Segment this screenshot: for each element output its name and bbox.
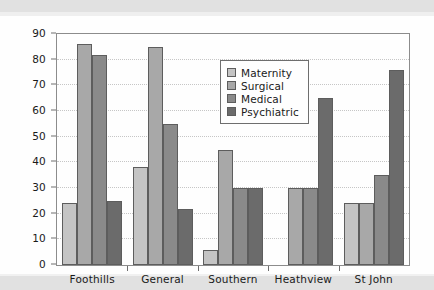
legend-item-maternity: Maternity xyxy=(227,66,299,79)
y-tick-label-80: 80 xyxy=(32,53,46,65)
bar-st-john-psychiatric xyxy=(389,70,404,265)
bar-southern-psychiatric xyxy=(248,188,263,265)
scan-band-top xyxy=(0,0,434,12)
bar-group-foothills xyxy=(57,34,127,265)
y-tick-mark-10 xyxy=(51,238,56,239)
bar-chart-figure: 0102030405060708090 FoothillsGeneralSout… xyxy=(0,16,434,274)
y-tick-mark-60 xyxy=(51,110,56,111)
y-tick-mark-30 xyxy=(51,187,56,188)
x-tick-label-general: General xyxy=(141,273,184,285)
bar-southern-maternity xyxy=(203,250,218,265)
y-tick-label-10: 10 xyxy=(32,232,46,244)
bar-general-surgical xyxy=(148,47,163,265)
y-tick-label-40: 40 xyxy=(32,155,46,167)
bar-foothills-psychiatric xyxy=(107,201,122,265)
chart-legend: MaternitySurgicalMedicalPsychiatric xyxy=(220,60,309,124)
x-tick-mark-3 xyxy=(268,266,269,271)
legend-label-psychiatric: Psychiatric xyxy=(241,106,299,118)
y-tick-mark-90 xyxy=(51,33,56,34)
bar-st-john-surgical xyxy=(359,203,374,265)
bar-foothills-maternity xyxy=(62,203,77,265)
legend-item-psychiatric: Psychiatric xyxy=(227,105,299,118)
y-tick-mark-80 xyxy=(51,58,56,59)
bar-group-st-john xyxy=(339,34,409,265)
legend-swatch-medical xyxy=(227,94,236,103)
x-tick-label-heathview: Heathview xyxy=(275,273,333,285)
x-axis: FoothillsGeneralSouthernHeathviewSt John xyxy=(57,266,409,290)
y-axis: 0102030405060708090 xyxy=(0,33,56,266)
bar-heathview-surgical xyxy=(288,188,303,265)
bar-foothills-surgical xyxy=(77,44,92,265)
bar-general-maternity xyxy=(133,167,148,265)
y-tick-mark-0 xyxy=(51,264,56,265)
bar-heathview-psychiatric xyxy=(318,98,333,265)
x-tick-label-southern: Southern xyxy=(208,273,257,285)
legend-label-maternity: Maternity xyxy=(241,67,292,79)
legend-label-medical: Medical xyxy=(241,93,282,105)
legend-item-medical: Medical xyxy=(227,92,299,105)
bar-st-john-maternity xyxy=(344,203,359,265)
legend-swatch-psychiatric xyxy=(227,107,236,116)
x-tick-mark-1 xyxy=(127,266,128,271)
y-tick-mark-50 xyxy=(51,135,56,136)
y-tick-label-30: 30 xyxy=(32,181,46,193)
bar-heathview-medical xyxy=(303,188,318,265)
legend-item-surgical: Surgical xyxy=(227,79,299,92)
bar-southern-surgical xyxy=(218,150,233,266)
x-tick-label-st-john: St John xyxy=(355,273,393,285)
y-tick-label-90: 90 xyxy=(32,27,46,39)
x-tick-mark-2 xyxy=(198,266,199,271)
y-tick-label-50: 50 xyxy=(32,130,46,142)
legend-swatch-maternity xyxy=(227,68,236,77)
y-tick-mark-70 xyxy=(51,84,56,85)
x-tick-mark-4 xyxy=(339,266,340,271)
bar-foothills-medical xyxy=(92,55,107,265)
y-tick-label-60: 60 xyxy=(32,104,46,116)
legend-swatch-surgical xyxy=(227,81,236,90)
bar-group-general xyxy=(127,34,197,265)
bar-general-medical xyxy=(163,124,178,265)
bar-general-psychiatric xyxy=(178,209,193,265)
y-tick-label-20: 20 xyxy=(32,207,46,219)
y-tick-label-0: 0 xyxy=(39,258,46,270)
y-tick-mark-40 xyxy=(51,161,56,162)
bar-southern-medical xyxy=(233,188,248,265)
legend-label-surgical: Surgical xyxy=(241,80,284,92)
x-tick-label-foothills: Foothills xyxy=(70,273,115,285)
y-tick-mark-20 xyxy=(51,212,56,213)
bar-st-john-medical xyxy=(374,175,389,265)
y-tick-label-70: 70 xyxy=(32,78,46,90)
